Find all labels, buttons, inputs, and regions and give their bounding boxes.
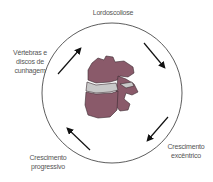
label-line: Crescimento [160, 142, 212, 151]
arrow-bottom-right [148, 117, 168, 140]
label-line: progressivo [22, 162, 74, 171]
label-lordoscoliose: Lordoscoliose [88, 8, 138, 17]
label-line: excêntrico [160, 151, 212, 160]
vertebra-illustration [85, 56, 138, 118]
arrow-top-right [144, 43, 164, 67]
label-line: cunhagem [4, 66, 56, 75]
label-line: Vértebras e [4, 48, 56, 57]
arrow-top-left [58, 49, 80, 74]
arrow-bottom-left [68, 129, 90, 150]
label-vertebras-discos-cunhagem: Vértebras e discos de cunhagem [4, 48, 56, 75]
label-line: Crescimento [22, 153, 74, 162]
label-line: discos de [4, 57, 56, 66]
label-crescimento-progressivo: Crescimento progressivo [22, 153, 74, 171]
label-crescimento-excentrico: Crescimento excêntrico [160, 142, 212, 160]
